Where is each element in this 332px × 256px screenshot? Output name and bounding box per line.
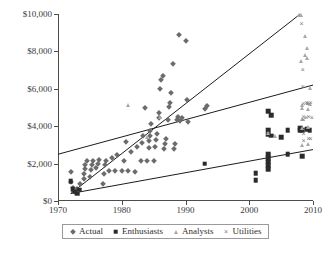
data-point-analysts xyxy=(299,59,303,63)
data-point-utilities xyxy=(300,67,306,73)
plot-area: $0$2,000$4,000$6,000$8,000$10,000 197019… xyxy=(58,14,313,201)
legend-item-utilities[interactable]: Utilities xyxy=(223,227,262,236)
x-tick-label: 1990 xyxy=(177,206,195,215)
x-tick-label: 2010 xyxy=(304,206,322,215)
legend-item-analysts[interactable]: Analysts xyxy=(172,227,214,236)
legend-label: Enthusiasts xyxy=(122,227,163,236)
x-tick-label: 1980 xyxy=(113,206,131,215)
y-tick-label: $8,000 xyxy=(27,47,52,56)
data-point-analysts xyxy=(126,103,130,107)
x-tick-label: 1970 xyxy=(49,206,67,215)
data-point-analysts xyxy=(303,34,307,38)
data-point-enthusiasts xyxy=(285,128,290,133)
data-point-enthusiasts xyxy=(253,171,258,176)
data-point-enthusiasts xyxy=(279,135,284,140)
cross-icon xyxy=(223,228,230,235)
x-tick-label: 2000 xyxy=(240,206,258,215)
data-point-analysts xyxy=(266,131,270,135)
data-point-utilities xyxy=(309,115,315,121)
data-point-enthusiasts xyxy=(77,187,82,192)
triangle-icon xyxy=(172,228,179,235)
data-point-enthusiasts xyxy=(300,154,305,159)
chart-root: $0$2,000$4,000$6,000$8,000$10,000 197019… xyxy=(0,0,332,256)
y-tick-label: $10,000 xyxy=(23,10,52,19)
data-point-enthusiasts xyxy=(269,113,274,118)
chart-legend: ActualEnthusiastsAnalystsUtilities xyxy=(62,224,269,239)
data-point-utilities xyxy=(299,21,305,27)
y-tick-label: $4,000 xyxy=(27,122,52,131)
data-point-analysts xyxy=(306,142,310,146)
data-point-analysts xyxy=(300,106,304,110)
data-point-utilities xyxy=(307,136,313,142)
legend-label: Actual xyxy=(79,227,103,236)
data-point-analysts xyxy=(306,107,310,111)
square-icon xyxy=(112,228,119,235)
data-point-analysts xyxy=(158,115,162,119)
data-point-analysts xyxy=(273,134,277,138)
diamond-icon xyxy=(69,228,76,235)
data-point-analysts xyxy=(299,13,303,17)
data-point-enthusiasts xyxy=(266,167,271,172)
data-point-enthusiasts xyxy=(202,161,207,166)
data-point-utilities xyxy=(300,84,306,90)
data-point-analysts xyxy=(145,135,149,139)
data-point-enthusiasts xyxy=(68,179,73,184)
data-point-enthusiasts xyxy=(285,152,290,157)
data-point-analysts xyxy=(305,56,309,60)
legend-item-actual[interactable]: Actual xyxy=(69,227,103,236)
data-point-enthusiasts xyxy=(253,178,258,183)
y-tick-label: $2,000 xyxy=(27,159,52,168)
legend-label: Utilities xyxy=(233,227,262,236)
data-point-analysts xyxy=(306,125,310,129)
legend-label: Analysts xyxy=(182,227,214,236)
legend-item-enthusiasts[interactable]: Enthusiasts xyxy=(112,227,163,236)
data-point-utilities xyxy=(307,100,313,106)
y-tick-label: $6,000 xyxy=(27,84,52,93)
data-point-analysts xyxy=(305,46,309,50)
data-point-analysts xyxy=(308,86,312,90)
